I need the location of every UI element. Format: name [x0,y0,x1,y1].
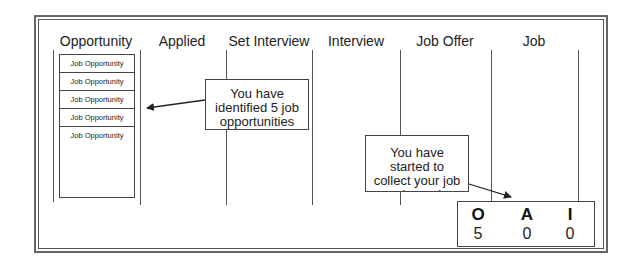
arrow-to-counter [469,184,511,197]
callout-line: identified 5 job [206,101,308,115]
counter-letter: O [463,205,493,225]
job-search-counter: O 5 A 0 I 0 [457,201,595,247]
counter-opportunities: O 5 [463,205,493,243]
counter-applied: A 0 [512,205,542,243]
callout-line: collect your job [366,174,468,188]
callout-line: You have [206,87,308,101]
callout-line: You have [366,146,468,160]
callout-collect-numbers: You have started to collect your job sea… [365,135,469,192]
callout-line: started to [366,160,468,174]
callout-line: opportunities [206,115,308,129]
counter-value: 0 [512,225,542,243]
callout-identified-opportunities: You have identified 5 job opportunities [205,79,309,130]
counter-value: 0 [555,225,585,243]
counter-letter: I [555,205,585,225]
callout-line: search numbers [366,188,468,192]
arrow-to-opportunities [147,100,205,108]
counter-interviews: I 0 [555,205,585,243]
counter-letter: A [512,205,542,225]
counter-value: 5 [463,225,493,243]
